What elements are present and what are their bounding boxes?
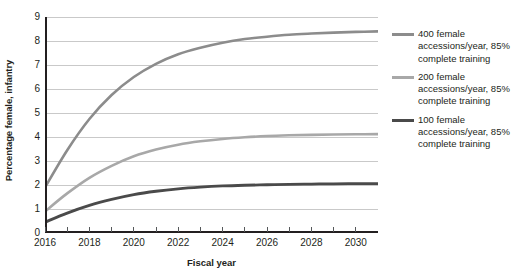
x-axis-tick-label: 2016 [25, 238, 65, 248]
y-axis-tick-label: 2 [26, 180, 40, 190]
series-line-100 [45, 184, 378, 223]
chart-legend: 400 female accessions/year, 85% complete… [392, 28, 522, 157]
legend-item: 100 female accessions/year, 85% complete… [392, 114, 522, 151]
x-axis-tick-label: 2030 [336, 238, 376, 248]
chart-canvas [45, 17, 378, 233]
x-axis-tick-label: 2024 [203, 238, 243, 248]
y-axis-title: Percentage female, infantry [0, 0, 18, 240]
y-axis-tick-label: 7 [26, 60, 40, 70]
x-axis-tick-label: 2028 [291, 238, 331, 248]
y-axis-tick-label: 9 [26, 12, 40, 22]
x-axis-tick-label: 2020 [114, 238, 154, 248]
y-axis-tick-label: 3 [26, 156, 40, 166]
legend-swatch-icon [392, 76, 414, 79]
y-axis-tick-label: 8 [26, 36, 40, 46]
y-axis-tick-label: 1 [26, 204, 40, 214]
x-axis-title: Fiscal year [45, 257, 378, 268]
legend-label: 400 female accessions/year, 85% complete… [418, 28, 520, 65]
legend-label: 200 female accessions/year, 85% complete… [418, 71, 520, 108]
series-line-400 [45, 31, 378, 187]
chart-figure: Percentage female, infantry 0123456789 2… [0, 0, 522, 277]
y-axis-title-text: Percentage female, infantry [4, 59, 15, 180]
legend-label: 100 female accessions/year, 85% complete… [418, 114, 520, 151]
x-axis-tick-label: 2026 [247, 238, 287, 248]
x-axis-tick-label: 2018 [69, 238, 109, 248]
legend-swatch-icon [392, 33, 414, 36]
y-axis-tick-label: 4 [26, 132, 40, 142]
legend-swatch-icon [392, 119, 414, 122]
y-axis-tick-label: 5 [26, 108, 40, 118]
legend-item: 200 female accessions/year, 85% complete… [392, 71, 522, 108]
series-line-200 [45, 134, 378, 211]
x-axis-tick-label: 2022 [158, 238, 198, 248]
y-axis-tick-label: 6 [26, 84, 40, 94]
plot-area [45, 17, 378, 233]
legend-item: 400 female accessions/year, 85% complete… [392, 28, 522, 65]
